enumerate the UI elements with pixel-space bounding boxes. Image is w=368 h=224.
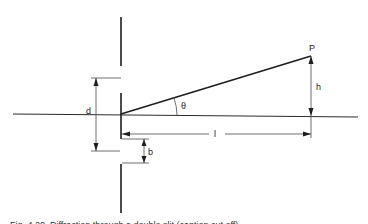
ray-to-point-p [121, 56, 311, 114]
b-arrow-top [142, 139, 147, 146]
optical-axis [13, 114, 358, 117]
l-arrow-left [122, 132, 130, 137]
double-slit-diagram: θ h P l d b Fig. 4.20. Diffraction throu… [0, 0, 368, 224]
point-p-label: P [309, 43, 315, 53]
d-arrow-top [94, 78, 99, 86]
d-label: d [86, 106, 91, 116]
l-label: l [214, 129, 216, 139]
b-arrow-bottom [142, 156, 147, 163]
b-label: b [148, 147, 153, 157]
h-label: h [316, 82, 321, 92]
h-arrow-bottom [309, 108, 314, 116]
d-arrow-bottom [94, 143, 99, 151]
l-arrow-right [303, 132, 311, 137]
angle-label: θ [181, 101, 186, 111]
angle-arc [174, 98, 177, 115]
figure-caption: Fig. 4.20. Diffraction through a double … [10, 220, 238, 224]
